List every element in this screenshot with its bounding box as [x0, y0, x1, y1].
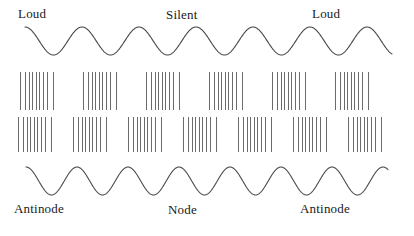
label-silent: Silent	[166, 8, 198, 21]
label-loud-right: Loud	[312, 7, 340, 20]
particle-row-top	[20, 72, 368, 110]
lower-wave-path	[26, 167, 388, 195]
label-loud-left: Loud	[18, 7, 46, 20]
label-node: Node	[168, 203, 197, 216]
label-antinode-right: Antinode	[300, 202, 350, 215]
upper-wave-path	[25, 27, 392, 55]
standing-wave-figure: Loud Silent Loud Antinode Node Antinode	[0, 0, 414, 236]
label-antinode-left: Antinode	[14, 202, 64, 215]
particle-row-bottom	[18, 117, 381, 152]
